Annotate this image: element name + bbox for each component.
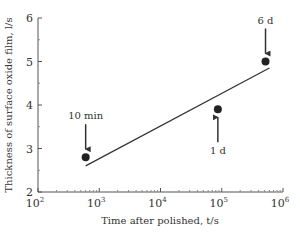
data-point xyxy=(82,153,90,161)
fit-line xyxy=(86,68,270,166)
x-tick-label: 102 xyxy=(26,196,44,210)
annotation-label: 10 min xyxy=(68,110,104,121)
data-point xyxy=(262,58,270,66)
data-point xyxy=(214,105,222,113)
y-tick-label: 4 xyxy=(26,99,33,112)
y-tick-label: 3 xyxy=(26,143,33,156)
y-tick-label: 6 xyxy=(26,12,33,25)
x-tick-label: 104 xyxy=(148,196,167,210)
annotation-label: 6 d xyxy=(258,15,275,26)
chart: 23456 102103104105106 10 min1 d6 d Thick… xyxy=(0,0,300,236)
y-axis-label: Thickness of surface oxide film, l/s xyxy=(3,17,14,192)
axes xyxy=(38,18,283,192)
x-tick-label: 106 xyxy=(271,196,290,210)
x-tick-label: 105 xyxy=(210,196,228,210)
x-tick-label: 103 xyxy=(87,196,105,210)
x-axis-label: Time after polished, t/s xyxy=(101,215,219,226)
annotation-label: 1 d xyxy=(210,145,227,156)
y-tick-label: 5 xyxy=(26,56,33,69)
